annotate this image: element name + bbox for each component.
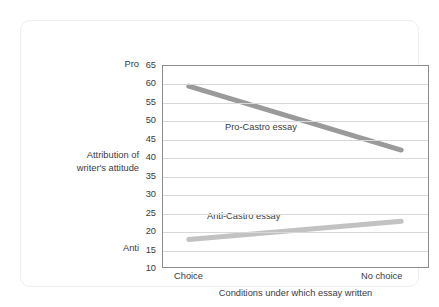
y-axis-tick-label: 30 <box>131 189 156 199</box>
y-axis-tick-label: 35 <box>131 171 156 181</box>
gridline <box>163 121 428 122</box>
y-axis-tick-label: 20 <box>131 226 156 236</box>
gridline <box>163 251 428 252</box>
series-label-pro-castro: Pro-Castro essay <box>223 122 299 132</box>
y-axis-title: Attribution of writer's attitude <box>21 149 139 174</box>
y-axis-tick-label: 60 <box>131 78 156 88</box>
gridline <box>163 177 428 178</box>
y-axis-tick-label: 10 <box>131 263 156 273</box>
gridline <box>163 214 428 215</box>
y-axis-tick-label: 55 <box>131 97 156 107</box>
y-axis-tick-label: 25 <box>131 208 156 218</box>
series-line-anti-castro <box>189 221 401 239</box>
x-axis-tick-label-choice: Choice <box>174 271 203 281</box>
x-axis-tick-label-no-choice: No choice <box>361 271 402 281</box>
gridline <box>163 103 428 104</box>
y-axis-tick-label: 15 <box>131 245 156 255</box>
y-axis-tick-label: 40 <box>131 152 156 162</box>
series-label-anti-castro: Anti-Castro essay <box>205 211 282 221</box>
y-axis-tick-label: 45 <box>131 134 156 144</box>
x-axis-title: Conditions under which essay written <box>162 288 429 298</box>
gridline <box>163 232 428 233</box>
y-axis-tick-label: 65 <box>131 60 156 70</box>
plot-area: Pro-Castro essay Anti-Castro essay <box>162 65 429 268</box>
figure-card: Attribution of writer's attitude Pro Ant… <box>20 20 419 287</box>
gridline <box>163 158 428 159</box>
gridline <box>163 195 428 196</box>
gridline <box>163 140 428 141</box>
series-lines <box>163 66 428 267</box>
y-axis-tick-label: 50 <box>131 115 156 125</box>
y-axis-tick-labels: 101520253035404550556065 <box>131 59 156 269</box>
gridline <box>163 84 428 85</box>
